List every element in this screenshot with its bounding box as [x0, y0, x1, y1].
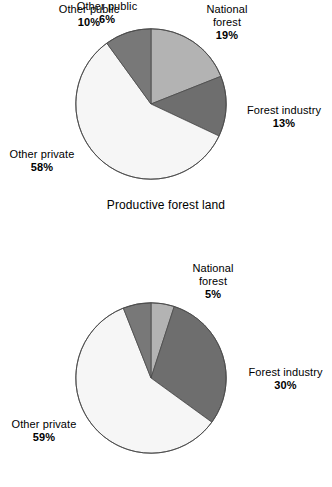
chart-caption-top: Productive forest land — [0, 198, 332, 212]
slice-label-name-line1: National — [190, 3, 264, 16]
slice-label-other-public-bottom: Other public 6% — [61, 0, 153, 26]
slice-label-national-forest-bottom: National forest 5% — [176, 262, 250, 301]
pie-chart-bottom — [75, 302, 227, 454]
chart-second-pie — [0, 243, 332, 487]
chart-productive-forest-land: Other public 10% National forest 19% For… — [0, 0, 332, 243]
slice-label-name: Other private — [0, 418, 88, 431]
slice-label-value: 5% — [176, 288, 250, 301]
slice-label-name: Forest industry — [239, 366, 332, 379]
slice-label-name: Other private — [0, 148, 84, 161]
slice-label-name-line1: National — [176, 262, 250, 275]
slice-label-value: 13% — [236, 117, 332, 130]
pie-svg-bottom — [75, 302, 227, 454]
pie-chart-top — [75, 28, 227, 180]
slice-label-other-private-top: Other private 58% — [0, 148, 84, 174]
slice-label-value: 6% — [61, 13, 153, 26]
slice-label-other-private-bottom: Other private 59% — [0, 418, 88, 444]
slice-label-forest-industry-top: Forest industry 13% — [236, 104, 332, 130]
slice-label-name-line2: forest — [176, 275, 250, 288]
slice-label-name: Other public — [61, 0, 153, 13]
slice-label-value: 58% — [0, 161, 84, 174]
slice-label-value: 19% — [190, 29, 264, 42]
slice-label-value: 30% — [239, 379, 332, 392]
slice-label-name: Forest industry — [236, 104, 332, 117]
pie-svg-top — [75, 28, 227, 180]
slice-label-forest-industry-bottom: Forest industry 30% — [239, 366, 332, 392]
slice-label-name-line2: forest — [190, 16, 264, 29]
slice-label-value: 59% — [0, 431, 88, 444]
slice-label-national-forest-top: National forest 19% — [190, 3, 264, 42]
